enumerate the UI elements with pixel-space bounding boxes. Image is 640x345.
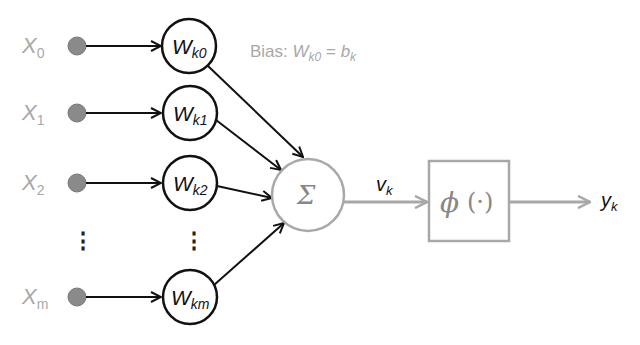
- weight-node-wk1: Wk1: [163, 86, 217, 140]
- arrow-wk2-to-sum: [217, 186, 272, 198]
- weight-node-wkm: Wkm: [163, 270, 217, 324]
- sigma-symbol: Σ: [296, 180, 316, 210]
- svg-text:X0: X0: [21, 33, 45, 61]
- svg-text:Xm: Xm: [21, 284, 48, 312]
- arrow-wk0-to-sum: [208, 66, 303, 157]
- weight-node-wk0: Wk0: [162, 19, 216, 73]
- svg-text:X2: X2: [21, 170, 45, 198]
- input-node-x2: [68, 174, 86, 192]
- input-label-x0: X0: [21, 33, 45, 61]
- phi-symbol: ϕ: [440, 186, 459, 219]
- weight-node-wk2: Wk2: [163, 156, 217, 210]
- arrow-wkm-to-sum: [214, 223, 284, 285]
- input-label-x1: X1: [21, 100, 45, 128]
- input-node-xm: [68, 288, 86, 306]
- svg-text:X1: X1: [21, 100, 45, 128]
- induced-field-label: vk: [376, 173, 394, 198]
- ellipsis-inputs: ⋮: [72, 228, 94, 253]
- input-label-x2: X2: [21, 170, 45, 198]
- neuron-diagram: X0 X1 X2 Xm ⋮ ⋮ Wk0 Wk1 Wk2 Wkm Bias: Wk…: [0, 0, 640, 345]
- input-node-x1: [68, 104, 86, 122]
- ellipsis-weights: ⋮: [183, 228, 205, 253]
- output-label: yk: [599, 189, 619, 214]
- input-label-xm: Xm: [21, 284, 48, 312]
- summation-node: Σ: [272, 159, 344, 231]
- input-node-x0: [68, 37, 86, 55]
- svg-text:(·): (·): [467, 188, 493, 216]
- activation-function-box: ϕ (·): [429, 161, 509, 241]
- bias-annotation: Bias: Wk0 = bk: [250, 42, 357, 64]
